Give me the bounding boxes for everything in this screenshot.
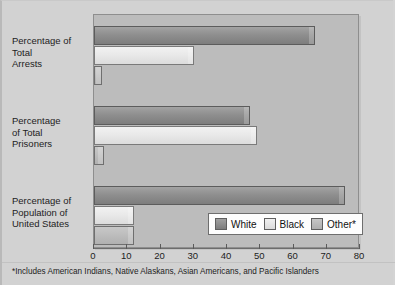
bar-highlight (128, 227, 133, 244)
legend-entry-other: Other* (311, 218, 356, 230)
category-label-prisoners: Percentage of Total Prisoners (12, 115, 92, 150)
bar-highlight (309, 27, 314, 44)
category-label-arrests: Percentage of Total Arrests (12, 35, 92, 70)
legend-swatch-icon (311, 218, 323, 230)
bar-arrests-black (94, 46, 194, 65)
x-axis-tick-label: 40 (213, 250, 239, 261)
legend-swatch-icon (264, 218, 276, 230)
bar-highlight (244, 107, 249, 124)
x-axis-tick-label: 80 (346, 250, 372, 261)
legend-label: White (231, 219, 257, 230)
x-axis-tick-mark (226, 244, 227, 249)
legend-label: Other* (327, 219, 356, 230)
category-label-line: of Total (12, 127, 92, 139)
x-axis-tick-mark (160, 244, 161, 249)
legend-swatch-icon (215, 218, 227, 230)
x-axis-tick-label: 10 (113, 250, 139, 261)
bar-prisoners-black (94, 126, 257, 145)
x-axis-tick-mark (293, 244, 294, 249)
category-label-line: Prisoners (12, 138, 92, 150)
x-axis-tick-label: 30 (180, 250, 206, 261)
bar-highlight (96, 67, 101, 84)
bar-population-white (94, 186, 345, 205)
category-label-line: Population of (12, 207, 92, 219)
x-axis-tick-mark (259, 244, 260, 249)
bar-highlight (188, 47, 193, 64)
category-label-population: Percentage of Population of United State… (12, 195, 92, 230)
bar-arrests-other (94, 66, 102, 85)
footnote-text: *Includes American Indians, Native Alask… (12, 267, 319, 276)
category-label-line: Percentage (12, 115, 92, 127)
bar-population-other (94, 226, 134, 245)
bar-highlight (251, 127, 256, 144)
category-label-line: United States (12, 218, 92, 230)
x-axis-tick-mark (326, 244, 327, 249)
x-axis-tick-label: 60 (280, 250, 306, 261)
bar-population-black (94, 206, 134, 225)
bar-highlight (339, 187, 344, 204)
x-axis-tick-label: 70 (313, 250, 339, 261)
legend-label: Black (280, 219, 304, 230)
x-axis-tick-mark (93, 244, 94, 249)
x-axis-tick-label: 50 (246, 250, 272, 261)
bar-arrests-white (94, 26, 315, 45)
x-axis-tick-mark (359, 244, 360, 249)
category-label-line: Total (12, 47, 92, 59)
bar-prisoners-other (94, 146, 104, 165)
category-label-line: Percentage of (12, 195, 92, 207)
chart-legend: White Black Other* (208, 213, 363, 235)
x-axis-tick-label: 0 (80, 250, 106, 261)
x-axis-tick-mark (126, 244, 127, 249)
bar-prisoners-white (94, 106, 250, 125)
x-axis-tick-label: 20 (147, 250, 173, 261)
x-axis-tick-mark (193, 244, 194, 249)
category-label-line: Arrests (12, 58, 92, 70)
footnote-divider (2, 262, 395, 263)
legend-entry-white: White (215, 218, 257, 230)
bar-highlight (128, 207, 133, 224)
category-label-line: Percentage of (12, 35, 92, 47)
bar-highlight (98, 147, 103, 164)
legend-entry-black: Black (264, 218, 304, 230)
